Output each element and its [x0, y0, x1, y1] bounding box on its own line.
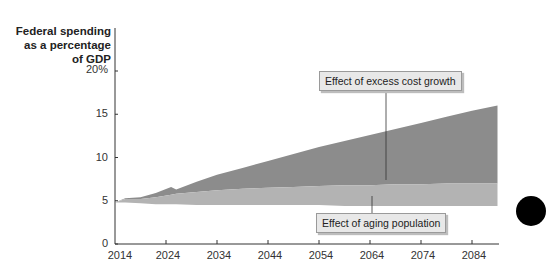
- x-ticks: [166, 240, 472, 244]
- y-tick-label: 20%: [68, 63, 108, 75]
- x-tick-label: 2034: [199, 249, 239, 261]
- y-axis-title-line: as a percentage: [0, 38, 111, 52]
- callout-excess-cost-growth: Effect of excess cost growth: [319, 71, 462, 91]
- x-tick-label: 2044: [250, 249, 290, 261]
- x-tick-label: 2024: [148, 249, 188, 261]
- x-tick-label: 2014: [100, 249, 140, 261]
- y-axis-title: Federal spending as a percentage of GDP: [0, 24, 111, 66]
- y-axis-title-line: Federal spending: [0, 24, 111, 38]
- area-aging-population: [115, 183, 498, 205]
- y-tick-label: 15: [68, 107, 108, 119]
- y-tick-label: 0: [68, 237, 108, 249]
- y-tick-label: 5: [68, 194, 108, 206]
- y-tick-label: 10: [68, 151, 108, 163]
- x-tick-label: 2074: [403, 249, 443, 261]
- x-tick-label: 2054: [301, 249, 341, 261]
- x-tick-label: 2064: [352, 249, 392, 261]
- x-tick-label: 2084: [454, 249, 494, 261]
- black-circle-marker: [516, 196, 546, 226]
- callout-aging-population: Effect of aging population: [316, 213, 446, 233]
